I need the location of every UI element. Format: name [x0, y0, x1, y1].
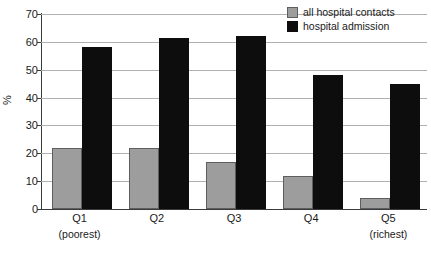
black-square-icon [287, 21, 298, 32]
bar-q4-contacts [283, 176, 313, 209]
bar-q3-contacts [206, 162, 236, 209]
y-tick-label: 50 [12, 65, 38, 75]
x-label-q4: Q4 [273, 212, 350, 225]
y-tickmark [37, 209, 41, 210]
y-tick-label: 60 [12, 37, 38, 47]
x-label-main: Q3 [227, 212, 242, 224]
legend-item[interactable]: hospital admission [287, 20, 389, 33]
x-label-main: Q1 [72, 212, 87, 224]
legend-item-label: all hospital contacts [303, 7, 395, 18]
bar-chart: % 010203040506070 Q1(poorest)Q2Q3Q4Q5(ri… [0, 0, 431, 264]
y-tick-label: 40 [12, 93, 38, 103]
y-tick-label: 70 [12, 9, 38, 19]
y-axis-tick-labels: 010203040506070 [8, 0, 38, 264]
bar-q2-contacts [129, 148, 159, 209]
bar-q5-contacts [360, 198, 390, 209]
bar-q2-admission [159, 38, 189, 209]
bar-q5-admission [390, 84, 420, 209]
bar-q1-admission [82, 47, 112, 209]
bar-q4-admission [313, 75, 343, 209]
x-label-q5: Q5(richest) [350, 212, 427, 241]
chart-legend: all hospital contactshospital admission [287, 6, 427, 36]
bar-q3-admission [236, 36, 266, 209]
x-label-main: Q5 [381, 212, 396, 224]
x-label-sub: (richest) [350, 228, 427, 241]
x-label-q3: Q3 [195, 212, 272, 225]
y-tick-label: 0 [12, 204, 38, 214]
bars-layer [41, 14, 427, 209]
gray-square-icon [287, 7, 298, 18]
x-label-main: Q2 [149, 212, 164, 224]
x-label-q2: Q2 [118, 212, 195, 225]
y-tick-label: 10 [12, 176, 38, 186]
caption-strip [4, 256, 264, 264]
x-label-main: Q4 [304, 212, 319, 224]
legend-item-label: hospital admission [303, 21, 389, 32]
x-label-q1: Q1(poorest) [41, 212, 118, 241]
x-label-sub: (poorest) [41, 228, 118, 241]
x-axis-labels: Q1(poorest)Q2Q3Q4Q5(richest) [41, 212, 427, 260]
y-tick-label: 30 [12, 120, 38, 130]
bar-q1-contacts [52, 148, 82, 209]
y-tick-label: 20 [12, 148, 38, 158]
legend-item[interactable]: all hospital contacts [287, 6, 395, 19]
x-axis-line [41, 209, 427, 210]
